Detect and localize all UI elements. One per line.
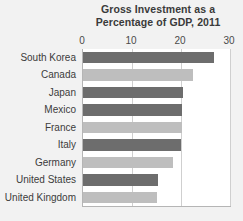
bar-row: Canada [0, 66, 243, 83]
category-label-mexico: Mexico [0, 101, 76, 118]
category-label-united-kingdom: United Kingdom [0, 189, 76, 206]
bar-row: United States [0, 171, 243, 188]
bar-south-korea [83, 52, 214, 64]
category-label-south-korea: South Korea [0, 49, 76, 66]
bar-italy [83, 139, 181, 151]
bar-france [83, 122, 182, 134]
x-tick-label-20: 20 [165, 35, 195, 46]
category-label-united-states: United States [0, 171, 76, 188]
chart-figure: Gross Investment as a Percentage of GDP,… [0, 0, 243, 221]
chart-title-line-1: Gross Investment as a [78, 3, 238, 16]
x-tick-label-30: 30 [214, 35, 243, 46]
x-axis-tick-labels: 0102030 [0, 35, 243, 48]
category-label-france: France [0, 119, 76, 136]
bar-japan [83, 87, 183, 99]
bar-united-states [83, 174, 158, 186]
bar-germany [83, 157, 173, 169]
bar-row: Germany [0, 154, 243, 171]
bar-row: Italy [0, 136, 243, 153]
chart-title: Gross Investment as a Percentage of GDP,… [78, 3, 238, 29]
category-label-italy: Italy [0, 136, 76, 153]
bar-mexico [83, 104, 182, 116]
bar-row: South Korea [0, 49, 243, 66]
bar-rows: South KoreaCanadaJapanMexicoFranceItalyG… [0, 49, 243, 206]
category-label-germany: Germany [0, 154, 76, 171]
bar-canada [83, 69, 193, 81]
bar-row: Japan [0, 84, 243, 101]
bar-united-kingdom [83, 192, 157, 204]
bar-row: France [0, 119, 243, 136]
bar-row: Mexico [0, 101, 243, 118]
category-label-canada: Canada [0, 66, 76, 83]
category-label-japan: Japan [0, 84, 76, 101]
bar-row: United Kingdom [0, 189, 243, 206]
x-tick-label-0: 0 [67, 35, 97, 46]
chart-title-line-2: Percentage of GDP, 2011 [78, 16, 238, 29]
x-tick-label-10: 10 [116, 35, 146, 46]
